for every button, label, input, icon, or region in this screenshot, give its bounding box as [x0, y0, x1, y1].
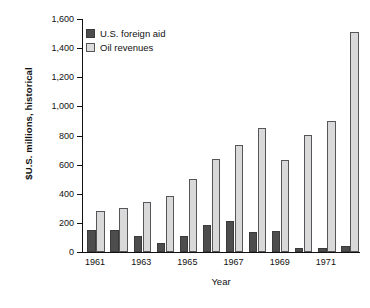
bar-foreign-aid-1962: [110, 230, 118, 252]
bar-foreign-aid-1966: [203, 225, 211, 252]
bar-foreign-aid-1961: [87, 230, 95, 252]
bar-chart: $U.S. millions, historical 0200400600800…: [0, 0, 370, 308]
bar-oil-revenues-1970: [304, 135, 312, 252]
y-axis-tick-label: 800: [59, 131, 74, 141]
bar-group: [180, 19, 197, 252]
y-axis-tick-label: 200: [59, 218, 74, 228]
chart-legend: U.S. foreign aidOil revenues: [86, 28, 165, 56]
bar-group: [249, 19, 266, 252]
bar-foreign-aid-1972: [341, 246, 349, 252]
bar-oil-revenues-1963: [143, 202, 151, 252]
x-axis-tick-label: 1967: [224, 257, 244, 267]
x-axis-tick-label: 1969: [270, 257, 290, 267]
bar-group: [226, 19, 243, 252]
y-axis-tick-label: 400: [59, 189, 74, 199]
y-axis-title: $U.S. millions, historical: [23, 34, 34, 214]
bar-oil-revenues-1969: [281, 160, 289, 252]
y-axis-tick: [77, 223, 82, 224]
y-axis-tick-label: 600: [59, 160, 74, 170]
y-axis-tick-label: 1,000: [51, 101, 74, 111]
y-axis-tick: [77, 194, 82, 195]
bar-foreign-aid-1968: [249, 232, 257, 252]
y-axis-tick: [77, 77, 82, 78]
y-axis-tick: [77, 106, 82, 107]
bar-oil-revenues-1968: [258, 128, 266, 252]
bar-oil-revenues-1962: [119, 208, 127, 252]
y-axis-tick: [77, 165, 82, 166]
bar-foreign-aid-1965: [180, 236, 188, 252]
legend-item-label: U.S. foreign aid: [100, 28, 165, 39]
bar-oil-revenues-1971: [327, 121, 335, 252]
y-axis-tick-label: 1,400: [51, 43, 74, 53]
bar-foreign-aid-1964: [157, 243, 165, 252]
bar-group: [272, 19, 289, 252]
x-axis-line: [82, 252, 360, 253]
dark-square-swatch: [86, 29, 95, 38]
x-axis-tick-label: 1965: [177, 257, 197, 267]
legend-item: Oil revenues: [86, 42, 165, 53]
x-axis-tick-label: 1961: [85, 257, 105, 267]
bar-foreign-aid-1971: [318, 248, 326, 252]
legend-item: U.S. foreign aid: [86, 28, 165, 39]
y-axis-tick-label: 0: [69, 247, 74, 257]
bar-oil-revenues-1965: [189, 179, 197, 252]
x-axis-tick-label: 1971: [316, 257, 336, 267]
bar-group: [341, 19, 358, 252]
bar-group: [203, 19, 220, 252]
bar-foreign-aid-1970: [295, 248, 303, 252]
x-axis-title: Year: [82, 276, 360, 287]
y-axis-tick: [77, 252, 82, 253]
light-square-swatch: [86, 43, 95, 52]
bar-group: [295, 19, 312, 252]
bar-foreign-aid-1969: [272, 231, 280, 252]
y-axis-tick-label: 1,600: [51, 14, 74, 24]
y-axis-tick-label: 1,200: [51, 72, 74, 82]
bar-oil-revenues-1967: [235, 145, 243, 252]
y-axis-tick: [77, 48, 82, 49]
bar-oil-revenues-1966: [212, 159, 220, 252]
y-axis-tick: [77, 19, 82, 20]
x-axis-tick-label: 1963: [131, 257, 151, 267]
bar-oil-revenues-1961: [96, 211, 104, 253]
bar-oil-revenues-1972: [350, 32, 358, 252]
bar-group: [318, 19, 335, 252]
y-axis-tick: [77, 136, 82, 137]
bar-foreign-aid-1963: [134, 236, 142, 252]
legend-item-label: Oil revenues: [100, 42, 153, 53]
bar-foreign-aid-1967: [226, 221, 234, 252]
bar-oil-revenues-1964: [166, 196, 174, 252]
